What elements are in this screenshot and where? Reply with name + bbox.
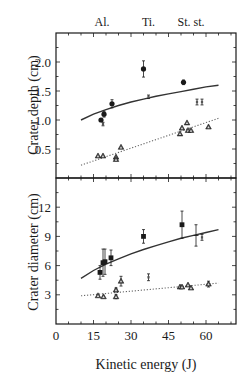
diameter-fit-dotted xyxy=(81,283,219,296)
data-point xyxy=(180,211,185,238)
top-y-axis-title: Crater depth (cm) xyxy=(26,55,42,155)
data-point xyxy=(201,234,204,240)
data-point xyxy=(101,294,107,299)
data-point xyxy=(194,225,199,246)
data-point xyxy=(118,144,124,149)
x-tick-label: 15 xyxy=(87,328,100,343)
x-tick-label: 0 xyxy=(53,328,60,343)
y-tick-label: 6 xyxy=(45,258,52,273)
x-tick-label: 60 xyxy=(200,328,213,343)
data-point xyxy=(141,61,146,77)
tick-labels: 0.51.01.52.0Al.Ti.St. st.36912015304560 xyxy=(35,15,213,343)
data-point xyxy=(98,117,103,122)
y-tick-label: 3 xyxy=(45,287,52,302)
data-point xyxy=(113,287,119,292)
data-point xyxy=(184,120,190,125)
bottom-y-axis-title: Crater diameter (cm) xyxy=(26,193,42,310)
data-point xyxy=(113,294,119,299)
data-point xyxy=(102,122,105,125)
material-label: Al. xyxy=(95,15,110,29)
material-label: St. st. xyxy=(177,15,204,29)
data-point xyxy=(101,111,106,117)
x-axis-title: Kinetic energy (J) xyxy=(96,357,197,373)
data-point xyxy=(206,281,212,287)
bottom-panel-frame xyxy=(56,178,236,324)
plot-frames xyxy=(56,33,236,324)
data-point xyxy=(147,274,150,281)
data-point xyxy=(141,230,146,244)
data-point xyxy=(196,99,199,105)
data-point xyxy=(95,153,101,158)
y-tick-label: 9 xyxy=(45,229,52,244)
data-point xyxy=(100,153,106,158)
data-point xyxy=(179,125,185,130)
data-point xyxy=(201,99,204,105)
data-point xyxy=(118,276,124,286)
x-tick-label: 45 xyxy=(162,328,175,343)
data-point xyxy=(206,124,212,129)
material-label: Ti. xyxy=(142,15,155,29)
top-panel-frame xyxy=(56,33,236,178)
x-tick-label: 30 xyxy=(125,328,138,343)
data-point xyxy=(181,80,186,85)
